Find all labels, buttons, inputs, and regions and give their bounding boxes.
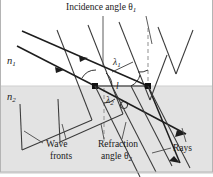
lambda2-label: λ2 [106,96,114,107]
angle2-subscript: 2 [129,155,133,163]
segment-l-label: l [116,82,119,92]
fronts-label: fronts [50,152,72,162]
incidence-angle-text: Incidence angle θ [66,2,133,12]
upper-right-wavefront-1 [176,30,193,74]
incident-wavefront-4 [158,27,176,74]
wave-label: Wave [46,140,67,150]
refraction-angle-label: angle θ2 [101,152,132,163]
lambda2-subscript: 2 [110,99,114,107]
n1-subscript: 1 [12,60,16,68]
incidence-angle-subscript: 1 [133,6,137,14]
incident-ray-arrowheads [55,56,88,73]
refraction-label: Refraction [98,140,138,150]
lambda1-label: λ1 [113,58,121,69]
rays-label: Rays [173,144,192,154]
medium2-index-label: n2 [7,91,16,104]
incident-ray-2 [17,46,95,86]
incidence-angle-arc-left [82,70,96,78]
leader-incidence-2 [146,16,152,44]
n2-subscript: 2 [12,96,16,104]
lambda1-subscript: 1 [117,61,121,69]
medium1-index-label: n1 [7,55,16,68]
refraction-diagram: Incidence angle θ1 n1 n2 λ1 λ2 l Wave fr… [0,0,213,177]
angle2-text: angle θ [101,151,129,161]
incidence-angle-arc-right [138,70,148,72]
incidence-angle-label: Incidence angle θ1 [66,3,136,14]
